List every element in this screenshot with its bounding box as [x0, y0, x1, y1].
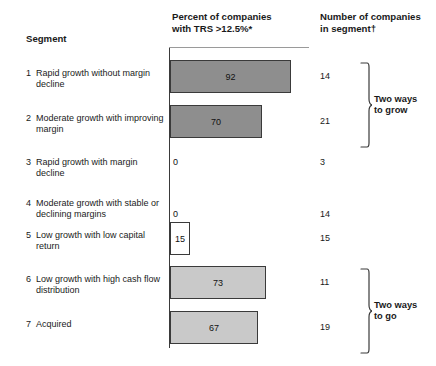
table-row: 3 Rapid growth with margin decline 0 3 — [0, 149, 436, 193]
column-header-number: Number of companies in segment† — [320, 11, 436, 34]
column-header-number-line1: Number of companies — [320, 11, 436, 23]
row-label: Low growth with high cash flow distribut… — [36, 274, 166, 297]
row-count: 14 — [320, 209, 330, 220]
bracket-label-line1: Two ways — [374, 300, 436, 311]
bracket-label-line2: to grow — [374, 105, 436, 116]
row-count: 14 — [320, 71, 330, 82]
row-label: Moderate growth with improving margin — [36, 113, 166, 136]
column-header-segment: Segment — [26, 33, 67, 45]
segment-trs-chart: Segment Percent of companies with TRS >1… — [0, 0, 436, 366]
bracket-two-ways-to-go — [360, 268, 371, 354]
bar-segment-2: 70 — [170, 105, 262, 138]
table-row: 5 Low growth with low capital return 15 … — [0, 222, 436, 266]
row-label: Rapid growth with margin decline — [36, 157, 166, 180]
row-number: 6 — [26, 274, 31, 285]
bar-value-label: 73 — [171, 278, 265, 289]
bar-segment-7: 67 — [170, 311, 258, 344]
column-header-percent: Percent of companies with TRS >12.5%* — [172, 11, 292, 34]
row-count: 11 — [320, 277, 329, 288]
column-header-percent-line1: Percent of companies — [172, 11, 292, 23]
bar-segment-5: 15 — [170, 222, 190, 255]
curly-brace-icon — [360, 268, 372, 354]
row-count: 21 — [320, 116, 330, 127]
bar-segment-6: 73 — [170, 266, 266, 299]
column-header-number-line2: in segment† — [320, 23, 436, 35]
bar-value-label: 0 — [173, 157, 178, 168]
curly-brace-icon — [360, 62, 372, 148]
row-number: 5 — [26, 230, 31, 241]
row-count: 3 — [320, 157, 325, 168]
bar-value-label: 15 — [171, 234, 189, 245]
row-label: Rapid growth without margin decline — [36, 68, 166, 91]
bar-segment-1: 92 — [170, 60, 291, 93]
row-count: 19 — [320, 322, 330, 333]
bracket-label-line2: to go — [374, 311, 436, 322]
bracket-two-ways-to-grow — [360, 62, 371, 148]
bracket-label-two-ways-to-go: Two ways to go — [374, 300, 436, 323]
axis-top-rule — [169, 47, 309, 48]
row-number: 3 — [26, 157, 31, 168]
bar-value-label: 67 — [171, 323, 257, 334]
bar-value-label: 70 — [171, 117, 261, 128]
bracket-label-line1: Two ways — [374, 94, 436, 105]
row-number: 1 — [26, 68, 31, 79]
bracket-label-two-ways-to-grow: Two ways to grow — [374, 94, 436, 117]
bar-value-label: 92 — [171, 72, 290, 83]
row-number: 7 — [26, 319, 31, 330]
row-label: Acquired — [36, 319, 166, 330]
row-number: 2 — [26, 113, 31, 124]
bar-value-label: 0 — [173, 209, 178, 220]
row-number: 4 — [26, 198, 31, 209]
row-label: Moderate growth with stable or declining… — [36, 198, 166, 221]
row-count: 15 — [320, 233, 330, 244]
row-label: Low growth with low capital return — [36, 230, 166, 253]
column-header-percent-line2: with TRS >12.5%* — [172, 23, 292, 35]
